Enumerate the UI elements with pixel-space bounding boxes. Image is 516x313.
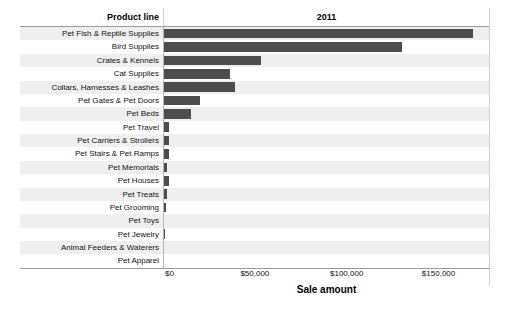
bar-row: Crates & Kennels	[20, 54, 490, 67]
zero-baseline	[163, 27, 164, 269]
category-label: Cat Supplies	[20, 67, 163, 80]
bar-row: Cat Supplies	[20, 67, 490, 80]
column-header-year: 2011	[163, 8, 490, 26]
category-label: Pet Travel	[20, 121, 163, 134]
row-plot-area	[163, 147, 490, 160]
bar-row: Animal Feeders & Waterers	[20, 241, 490, 254]
row-plot-area	[163, 67, 490, 80]
row-plot-area	[163, 121, 490, 134]
bar-row: Pet Treats	[20, 188, 490, 201]
row-plot-area	[163, 241, 490, 254]
bar[interactable]	[163, 42, 402, 52]
category-label: Bird Supplies	[20, 40, 163, 53]
category-label: Pet Toys	[20, 214, 163, 227]
bar[interactable]	[163, 29, 473, 39]
header-divider	[163, 8, 164, 26]
row-plot-area	[163, 134, 490, 147]
bar-row: Pet Jewelry	[20, 228, 490, 241]
x-axis-title: Sale amount	[163, 284, 490, 295]
category-label: Pet Stairs & Pet Ramps	[20, 147, 163, 160]
category-label: Animal Feeders & Waterers	[20, 241, 163, 254]
category-label: Pet Carriers & Strollers	[20, 134, 163, 147]
row-plot-area	[163, 228, 490, 241]
category-label: Pet Treats	[20, 188, 163, 201]
row-plot-area	[163, 81, 490, 94]
bar-row: Pet Fish & Reptile Supplies	[20, 27, 490, 40]
bar[interactable]	[163, 56, 261, 66]
axis-tick-label: $150,000	[422, 269, 455, 278]
category-label: Pet Beds	[20, 107, 163, 120]
bar-row: Pet Travel	[20, 121, 490, 134]
plot-right-rule	[489, 8, 490, 286]
bar-row: Pet Apparel	[20, 254, 490, 267]
bar-rows: Pet Fish & Reptile SuppliesBird Supplies…	[20, 27, 490, 268]
bar-row: Pet Carriers & Strollers	[20, 134, 490, 147]
bar-row: Collars, Harnesses & Leashes	[20, 81, 490, 94]
category-label: Pet Apparel	[20, 254, 163, 267]
row-plot-area	[163, 27, 490, 40]
category-label: Crates & Kennels	[20, 54, 163, 67]
row-plot-area	[163, 40, 490, 53]
bar-chart: Product line 2011 Pet Fish & Reptile Sup…	[0, 0, 516, 313]
row-plot-area	[163, 201, 490, 214]
category-label: Pet Jewelry	[20, 228, 163, 241]
category-label: Pet Houses	[20, 174, 163, 187]
row-plot-area	[163, 214, 490, 227]
category-label: Pet Fish & Reptile Supplies	[20, 27, 163, 40]
row-plot-area	[163, 94, 490, 107]
row-plot-area	[163, 54, 490, 67]
bar[interactable]	[163, 82, 235, 92]
row-plot-area	[163, 188, 490, 201]
category-label: Collars, Harnesses & Leashes	[20, 81, 163, 94]
axis-tick-label: $50,000	[240, 269, 269, 278]
bar[interactable]	[163, 109, 191, 119]
bar-row: Pet Stairs & Pet Ramps	[20, 147, 490, 160]
bar-row: Pet Beds	[20, 107, 490, 120]
bar-row: Pet Memorials	[20, 161, 490, 174]
axis-tick-label: $100,000	[330, 269, 363, 278]
category-label: Pet Memorials	[20, 161, 163, 174]
row-plot-area	[163, 161, 490, 174]
chart-header: Product line 2011	[20, 8, 490, 26]
category-label: Pet Gates & Pet Doors	[20, 94, 163, 107]
bar-row: Pet Grooming	[20, 201, 490, 214]
row-plot-area	[163, 107, 490, 120]
x-axis-ticks: $0$50,000$100,000$150,000	[163, 269, 490, 285]
axis-tick-label: $0	[165, 269, 174, 278]
bar-row: Pet Gates & Pet Doors	[20, 94, 490, 107]
bar-row: Bird Supplies	[20, 40, 490, 53]
row-plot-area	[163, 254, 490, 267]
bar[interactable]	[163, 96, 200, 106]
column-header-product-line: Product line	[20, 8, 163, 26]
bar[interactable]	[163, 69, 230, 79]
bar-row: Pet Toys	[20, 214, 490, 227]
row-plot-area	[163, 174, 490, 187]
bar-row: Pet Houses	[20, 174, 490, 187]
category-label: Pet Grooming	[20, 201, 163, 214]
